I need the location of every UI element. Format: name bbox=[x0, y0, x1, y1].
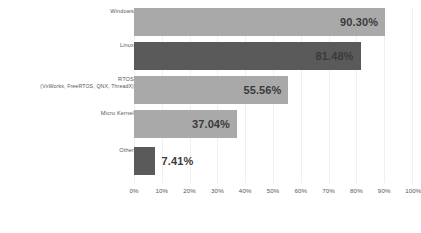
category-label: Windows bbox=[8, 8, 134, 15]
bar-row: Windows90.30% bbox=[0, 8, 421, 36]
category-label: RTOS(VxWorks, FreeRTOS, QNX, ThreadX) bbox=[8, 76, 134, 90]
category-label-text: Linux bbox=[120, 42, 134, 48]
x-tick-label: 60% bbox=[294, 186, 307, 196]
bar: 55.56% bbox=[134, 76, 288, 104]
x-tick-label: 70% bbox=[322, 186, 335, 196]
bar-row: RTOS(VxWorks, FreeRTOS, QNX, ThreadX)55.… bbox=[0, 76, 421, 104]
category-label-text: Micro Kernel bbox=[101, 110, 134, 116]
x-tick-label: 30% bbox=[211, 186, 224, 196]
bar-row: Other7.41% bbox=[0, 147, 421, 175]
bar: 90.30% bbox=[134, 8, 385, 36]
x-tick-label: 90% bbox=[378, 186, 391, 196]
category-label-text: Other bbox=[119, 147, 134, 153]
x-tick-label: 10% bbox=[155, 186, 168, 196]
bar: 37.04% bbox=[134, 110, 237, 138]
bar-value-label: 7.41% bbox=[162, 147, 194, 175]
category-label: Linux bbox=[8, 42, 134, 49]
bar-value-label: 55.56% bbox=[244, 76, 282, 104]
bar: 81.48% bbox=[134, 42, 361, 70]
bar: 7.41% bbox=[134, 147, 155, 175]
category-label: Micro Kernel bbox=[8, 110, 134, 117]
bar-value-label: 81.48% bbox=[316, 42, 354, 70]
category-label: Other bbox=[8, 147, 134, 154]
bar-row: Micro Kernel37.04% bbox=[0, 110, 421, 138]
category-sublabel-text: (VxWorks, FreeRTOS, QNX, ThreadX) bbox=[8, 83, 134, 90]
bar-value-label: 37.04% bbox=[192, 110, 230, 138]
x-axis: 0%10%20%30%40%50%60%70%80%90%100% bbox=[134, 186, 412, 198]
chart-caption bbox=[0, 226, 421, 233]
bar-rows: Windows90.30%Linux81.48%RTOS(VxWorks, Fr… bbox=[0, 0, 421, 183]
x-tick-label: 20% bbox=[183, 186, 196, 196]
category-label-text: Windows bbox=[110, 8, 134, 14]
bar-row: Linux81.48% bbox=[0, 42, 421, 70]
x-tick-label: 50% bbox=[267, 186, 280, 196]
x-tick-label: 0% bbox=[129, 186, 138, 196]
x-tick-label: 40% bbox=[239, 186, 252, 196]
x-tick-label: 100% bbox=[405, 186, 421, 196]
x-tick-label: 80% bbox=[350, 186, 363, 196]
category-label-text: RTOS bbox=[118, 76, 134, 82]
horizontal-bar-chart: Windows90.30%Linux81.48%RTOS(VxWorks, Fr… bbox=[0, 0, 421, 233]
bar-value-label: 90.30% bbox=[340, 8, 378, 36]
